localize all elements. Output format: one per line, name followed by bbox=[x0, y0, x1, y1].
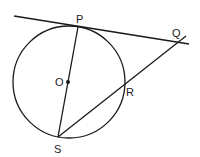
label-p: P bbox=[76, 13, 83, 25]
label-r: R bbox=[126, 86, 134, 98]
label-q: Q bbox=[172, 27, 181, 39]
label-o: O bbox=[55, 76, 64, 88]
geometry-diagram: P O R S Q bbox=[0, 0, 200, 157]
background bbox=[0, 0, 200, 157]
label-s: S bbox=[54, 143, 61, 155]
center-point-o bbox=[66, 80, 70, 84]
